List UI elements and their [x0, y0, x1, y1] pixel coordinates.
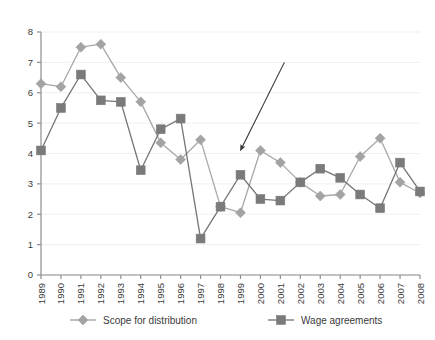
data-point-marker — [37, 146, 46, 155]
x-tick-label: 2005 — [355, 283, 366, 304]
data-point-marker — [315, 191, 325, 201]
x-tick-label: 1993 — [115, 283, 126, 304]
x-tick-label: 2000 — [255, 283, 266, 304]
y-tick-label: 4 — [28, 148, 33, 159]
x-tick-label: 1996 — [175, 283, 186, 304]
data-point-marker — [216, 202, 225, 211]
x-tick-label: 2008 — [415, 283, 426, 304]
data-point-marker — [136, 166, 145, 175]
x-tick-label: 1989 — [36, 283, 47, 304]
data-point-marker — [235, 208, 245, 218]
data-point-marker — [276, 196, 285, 205]
y-tick-label: 7 — [28, 57, 33, 68]
data-point-marker — [116, 97, 125, 106]
y-tick-label: 2 — [28, 209, 33, 220]
series-line-1 — [41, 44, 420, 213]
x-tick-label: 2001 — [275, 283, 286, 304]
data-point-marker — [96, 39, 106, 49]
data-point-marker — [336, 173, 345, 182]
data-point-marker — [36, 79, 46, 89]
legend-label: Wage agreements — [301, 315, 382, 326]
x-tick-label: 2002 — [295, 283, 306, 304]
data-point-marker — [376, 204, 385, 213]
data-point-marker — [256, 195, 265, 204]
line-chart: 012345678 198919901991199219931994199519… — [0, 0, 435, 340]
legend-label: Scope for distribution — [103, 315, 197, 326]
y-tick-label: 0 — [28, 269, 33, 280]
legend-marker-square — [277, 316, 286, 325]
data-point-marker — [57, 104, 66, 113]
data-point-marker — [56, 82, 66, 92]
series-lines-group — [41, 44, 420, 238]
x-axis: 1989199019911992199319941995199619971998… — [36, 275, 426, 304]
x-tick-label: 2004 — [335, 283, 346, 304]
data-point-marker — [156, 125, 165, 134]
chart-legend: Scope for distributionWage agreements — [70, 315, 382, 326]
x-tick-label: 1999 — [235, 283, 246, 304]
y-tick-label: 5 — [28, 118, 33, 129]
x-tick-label: 1998 — [215, 283, 226, 304]
data-point-marker — [176, 114, 185, 123]
data-point-marker — [395, 177, 405, 187]
x-tick-label: 1994 — [135, 283, 146, 304]
y-tick-label: 1 — [28, 239, 33, 250]
x-tick-label: 2006 — [375, 283, 386, 304]
x-tick-label: 1992 — [95, 283, 106, 304]
data-point-marker — [335, 190, 345, 200]
chart-figure: 012345678 198919901991199219931994199519… — [0, 0, 435, 340]
x-tick-label: 1990 — [55, 283, 66, 304]
data-point-marker — [76, 70, 85, 79]
data-point-marker — [96, 96, 105, 105]
data-point-marker — [316, 164, 325, 173]
series-markers-group — [36, 39, 425, 243]
legend-marker-diamond — [78, 315, 88, 325]
y-tick-label: 3 — [28, 178, 33, 189]
x-tick-label: 1997 — [195, 283, 206, 304]
x-tick-label: 2003 — [315, 283, 326, 304]
x-tick-label: 2007 — [395, 283, 406, 304]
annotations-group — [240, 62, 284, 150]
data-point-marker — [356, 190, 365, 199]
x-tick-label: 1995 — [155, 283, 166, 304]
data-point-marker — [236, 170, 245, 179]
data-point-marker — [396, 158, 405, 167]
cropped-caption-strip — [0, 0, 435, 8]
x-tick-label: 1991 — [75, 283, 86, 304]
annotation-arrow — [240, 62, 284, 150]
data-point-marker — [76, 42, 86, 52]
y-tick-label: 8 — [28, 26, 33, 37]
y-tick-label: 6 — [28, 87, 33, 98]
data-point-marker — [416, 187, 425, 196]
data-point-marker — [296, 178, 305, 187]
x-tick-group: 1989199019911992199319941995199619971998… — [36, 275, 426, 304]
data-point-marker — [196, 234, 205, 243]
